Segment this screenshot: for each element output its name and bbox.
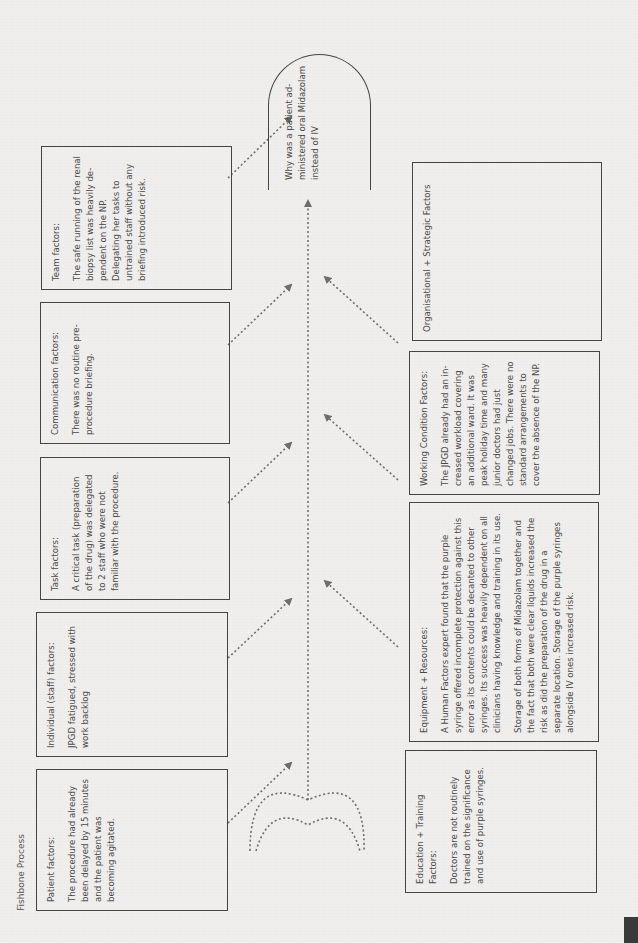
tail-arc-inner: [256, 818, 360, 851]
box-text: The safe running of the renal biopsy lis…: [71, 155, 149, 281]
problem-statement: Why was a patient ad- ministered oral Mi…: [284, 66, 320, 180]
organisational-strategic-factors-box: Organisational + Strategic Factors: [412, 162, 602, 341]
box-heading: Patient factors:: [45, 778, 58, 902]
box-text: JPGD fatigued, stressed with work backlo…: [66, 621, 92, 748]
box-text: A critical task (preparation of the drug…: [70, 466, 122, 591]
box-text: The JPGD already had an in- creased work…: [439, 360, 543, 486]
box-text: Doctors are not routinely trained on the…: [448, 759, 487, 884]
box-heading: Individual (staff) factors:: [45, 621, 58, 748]
working-condition-factors-box: Working Condition Factors: The JPGD alre…: [409, 351, 600, 495]
box-heading: Team factors:: [50, 155, 63, 281]
box-text: A Human Factors expert found that the pu…: [439, 511, 504, 733]
team-factors-box: Team factors: The safe running of the re…: [41, 146, 232, 290]
box-heading: Organisational + Strategic Factors: [421, 171, 434, 332]
communication-factors-box: Communication factors: There was no rout…: [40, 302, 230, 444]
equipment-resources-box: Equipment + Resources: A Human Factors e…: [409, 502, 599, 742]
box-heading: Communication factors:: [49, 311, 62, 435]
individual-factors-box: Individual (staff) factors: JPGD fatigue…: [36, 612, 228, 757]
box-text: There was no routine pre- procedure brie…: [70, 311, 96, 435]
box-heading: Working Condition Factors:: [418, 360, 431, 486]
scanned-page: Fishbone Process Pa: [0, 0, 638, 943]
box-heading: Education + Training Factors:: [414, 759, 440, 884]
fishbone-diagram: Fishbone Process Pa: [0, 0, 638, 943]
problem-head: Why was a patient ad- ministered oral Mi…: [268, 54, 371, 190]
patient-factors-box: Patient factors: The procedure had alrea…: [36, 769, 228, 911]
page-corner-mark: [624, 917, 638, 943]
task-factors-box: Task factors: A critical task (preparati…: [40, 457, 230, 600]
tail-arc-outer: [250, 793, 364, 851]
box-heading: Equipment + Resources:: [418, 511, 431, 733]
box-heading: Task factors:: [49, 466, 62, 591]
box-text: Storage of both forms of Midazolam toget…: [512, 511, 577, 733]
education-training-factors-box: Education + Training Factors: Doctors ar…: [405, 750, 597, 893]
box-text: The procedure had already been delayed b…: [66, 778, 118, 902]
